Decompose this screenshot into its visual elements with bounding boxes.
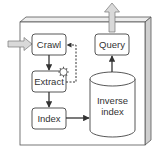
- container-top-face: [20, 17, 151, 22]
- inverse-index-label-line1: Inverse: [97, 95, 128, 106]
- extract-label: Extract: [34, 76, 64, 87]
- index-node: Index: [32, 108, 66, 129]
- crawl-node: Crawl: [32, 34, 66, 55]
- diagram-canvas: Crawl Extract Index: [0, 0, 162, 150]
- crawl-label: Crawl: [37, 39, 61, 50]
- architecture-diagram: Crawl Extract Index: [0, 0, 162, 150]
- index-label: Index: [37, 113, 60, 124]
- query-label: Query: [99, 39, 125, 50]
- query-node: Query: [95, 34, 129, 55]
- container-side-face: [145, 17, 151, 145]
- inverse-index-label-line2: index: [101, 106, 124, 117]
- inverse-index-cylinder: Inverse index: [90, 72, 135, 137]
